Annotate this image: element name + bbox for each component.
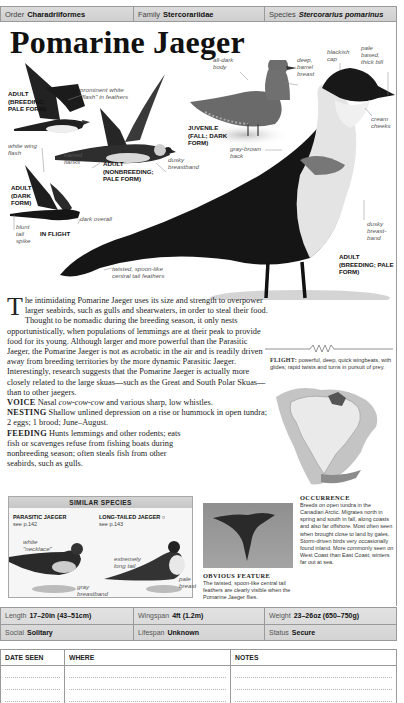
- stats-row-1: Length17–20in (43–51cm) Wingspan4ft (1.2…: [1, 608, 396, 625]
- stats-row-2: SocialSolitary LifespanUnknown StatusSec…: [1, 625, 396, 642]
- bird-illustrations: prominent white "flash" in feathers whit…: [0, 60, 397, 300]
- log-col-where: WHERE: [65, 650, 231, 665]
- label-cream-cheeks: cream cheeks: [371, 115, 396, 129]
- taxonomy-order: Order Charadriiformes: [1, 7, 134, 21]
- flying-jaeger-photo-icon: [203, 503, 293, 568]
- sighting-log-body: [1, 666, 396, 703]
- occurrence-title: OCCURRENCE: [300, 494, 350, 501]
- caption-adult-breeding-flight: ADULT (BREEDING; PALE FORM): [8, 90, 48, 113]
- stat-length: Length17–20in (43–51cm): [1, 608, 134, 624]
- similar-species-box: SIMILAR SPECIES PARASITIC JAEGER see p.1…: [8, 496, 193, 598]
- label-dusky-breast-band: dusky breast-band: [367, 220, 393, 241]
- intro-paragraph: The intimidating Pomarine Jaeger uses it…: [7, 296, 269, 398]
- label-gray-breastband: gray breastband: [77, 583, 111, 597]
- log-where-field[interactable]: [65, 666, 231, 703]
- label-all-dark-body: all-dark body: [213, 56, 243, 70]
- taxonomy-family: Family Stercorariidae: [134, 7, 265, 21]
- label-pale-based-bill: pale based, thick bill: [361, 44, 391, 65]
- caption-adult-nonbreeding: ADULT (NONBREEDING; PALE FORM): [103, 160, 159, 183]
- field-guide-page: Order Charadriiformes Family Stercorarii…: [0, 0, 404, 703]
- obvious-feature-photo: [203, 503, 293, 568]
- label-extremely-long-tail: extremely long tail: [114, 555, 144, 569]
- log-date-field[interactable]: [1, 666, 65, 703]
- label-dusky-breastband: dusky breastband: [168, 156, 208, 170]
- flight-pattern-icon: [265, 343, 393, 353]
- taxonomy-bar: Order Charadriiformes Family Stercorarii…: [0, 6, 397, 22]
- similar-species-long-tailed[interactable]: LONG-TAILED JAEGER ○ see p.143: [99, 514, 165, 527]
- flight-description: FLIGHT: powerful, deep, quick wingbeats,…: [270, 357, 398, 371]
- page-title: Pomarine Jaeger: [10, 24, 245, 61]
- label-white-necklace: white "necklace": [23, 538, 63, 552]
- label-barred-flanks: barred flanks: [64, 151, 94, 165]
- range-map: [266, 382, 396, 492]
- stat-weight: Weight23–26oz (650–750g): [265, 608, 396, 624]
- species-description: The intimidating Pomarine Jaeger uses it…: [7, 296, 269, 469]
- sighting-log: DATE SEEN WHERE NOTES: [0, 649, 397, 703]
- label-dark-overall: dark overall: [80, 215, 130, 222]
- nesting-paragraph: NESTING Shallow unlined depression on a …: [7, 408, 269, 428]
- label-gray-brown-back: gray-brown back: [230, 145, 270, 159]
- label-pale-breast: pale breast: [179, 575, 199, 589]
- drop-cap: T: [7, 297, 23, 317]
- label-blunt-tail-spike: blunt tail spike: [16, 223, 34, 244]
- log-notes-field[interactable]: [231, 666, 396, 703]
- symbol-icon: ○: [162, 514, 165, 520]
- label-prominent-flash: prominent white "flash" in feathers: [80, 86, 140, 100]
- log-col-notes: NOTES: [231, 650, 396, 665]
- caption-adult-dark: ADULT (DARK FORM): [11, 184, 37, 207]
- log-col-date: DATE SEEN: [1, 650, 65, 665]
- stat-social: SocialSolitary: [1, 625, 134, 642]
- bird-illustration-svg: [0, 60, 397, 300]
- obvious-feature-text: The twisted, spoon-like central tail fea…: [203, 580, 299, 601]
- voice-paragraph: VOICE Nasal cow-cow-cow and various shar…: [7, 398, 269, 408]
- sighting-log-header: DATE SEEN WHERE NOTES: [1, 650, 396, 666]
- similar-species-heading: SIMILAR SPECIES: [9, 497, 192, 508]
- label-deep-barrel-breast: deep, barrel breast: [297, 56, 323, 77]
- similar-species-parasitic[interactable]: PARASITIC JAEGER see p.142: [13, 514, 66, 527]
- obvious-feature-title: OBVIOUS FEATURE: [203, 572, 270, 579]
- label-twisted-tail: twisted, spoon-like central tail feather…: [112, 265, 177, 279]
- caption-in-flight: IN FLIGHT: [40, 230, 80, 238]
- label-blackish-cap: blackish cap: [327, 48, 352, 62]
- taxonomy-species: Species Stercorarius pomarinus: [265, 7, 396, 21]
- label-white-wing-flash: white wing flash: [8, 142, 48, 156]
- stats-table: Length17–20in (43–51cm) Wingspan4ft (1.2…: [0, 607, 397, 641]
- caption-adult-breeding-main: ADULT (BREEDING; PALE FORM): [339, 253, 395, 276]
- feeding-paragraph: FEEDING Hunts lemmings and other rodents…: [7, 429, 187, 470]
- stat-status: StatusSecure: [265, 625, 396, 642]
- stat-wingspan: Wingspan4ft (1.2m): [134, 608, 265, 624]
- stat-lifespan: LifespanUnknown: [134, 625, 265, 642]
- caption-juvenile: JUVENILE (FALL; DARK FORM): [188, 124, 234, 147]
- occurrence-text: Breeds on open tundra in the Canadian Ar…: [300, 502, 394, 566]
